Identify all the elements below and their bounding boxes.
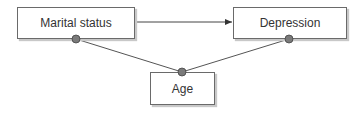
connector-dot-icon bbox=[72, 35, 80, 43]
connector-dot-icon bbox=[178, 68, 186, 76]
connector-dot-icon bbox=[285, 35, 293, 43]
diagram-dots bbox=[0, 0, 357, 118]
